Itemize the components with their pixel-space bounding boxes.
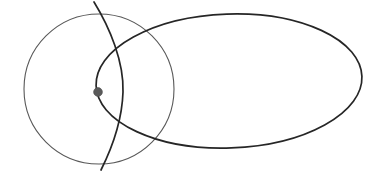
marked-point-dot xyxy=(94,88,103,97)
geometry-figure-svg xyxy=(0,0,380,178)
figure-canvas xyxy=(0,0,380,178)
